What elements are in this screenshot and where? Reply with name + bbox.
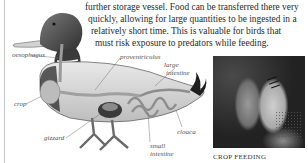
label-large-intestine-1: large bbox=[164, 61, 179, 69]
crop-organ bbox=[40, 80, 60, 104]
label-gizzard: gizzard bbox=[44, 134, 64, 142]
photo-bird-stripe bbox=[271, 85, 280, 89]
duck-eye bbox=[52, 22, 55, 25]
label-oesophagus: oesophagus bbox=[12, 51, 45, 59]
photo-wing-pattern bbox=[275, 111, 301, 137]
label-proventriculus: proventriculus bbox=[120, 53, 161, 61]
label-crop: crop bbox=[14, 100, 27, 108]
label-cloaca: cloaca bbox=[177, 128, 196, 136]
label-small-intestine-1: small bbox=[150, 142, 165, 150]
crop-feeding-photo bbox=[213, 56, 305, 148]
photo-caption: CROP FEEDING bbox=[213, 153, 266, 161]
label-small-intestine-2: intestine bbox=[150, 150, 174, 158]
label-large-intestine-2: intestine bbox=[166, 69, 190, 77]
